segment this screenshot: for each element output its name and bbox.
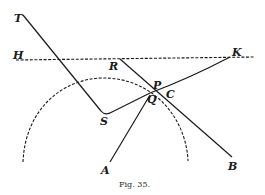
label-s: S (100, 115, 108, 128)
label-t: T (14, 12, 23, 25)
label-c: C (166, 88, 175, 101)
line-h-dashed (16, 57, 255, 60)
label-r: R (108, 60, 118, 73)
label-h: H (12, 49, 24, 62)
label-b: B (227, 160, 237, 173)
label-q: Q (147, 93, 157, 106)
label-k: K (231, 46, 242, 59)
line-a-q (110, 95, 150, 162)
geometry-figure: T H R K P C Q S A B Fig. 35. (0, 0, 265, 195)
label-p: P (152, 79, 162, 92)
label-a: A (100, 164, 110, 177)
figure-caption: Fig. 35. (119, 180, 150, 189)
line-r-b (120, 59, 232, 157)
line-t-s (23, 15, 101, 111)
